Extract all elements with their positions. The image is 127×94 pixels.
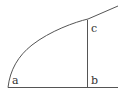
label-b: b <box>91 74 98 87</box>
diagram-canvas: a b c <box>0 0 127 94</box>
label-a: a <box>12 74 19 87</box>
label-c: c <box>91 22 97 35</box>
curve <box>8 6 118 88</box>
